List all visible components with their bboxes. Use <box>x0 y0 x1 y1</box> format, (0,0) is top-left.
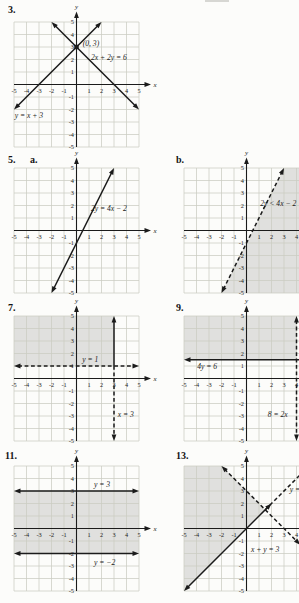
x-tick-label: 1 <box>257 381 260 388</box>
graph-problem-5b: yx-5-5-4-4-3-3-2-2-1-111223344552y < 4x … <box>170 146 299 304</box>
x-tick-label: 4 <box>125 233 129 240</box>
x-tick-label: 2 <box>100 87 103 94</box>
y-tick-label: 5 <box>71 462 74 469</box>
equation-label: (0, 3) <box>83 39 100 48</box>
y-tick-label: -3 <box>69 264 74 271</box>
y-tick-label: 1 <box>241 512 244 519</box>
y-axis-label: y <box>244 149 249 157</box>
equation-line <box>54 25 136 107</box>
x-tick-label: -2 <box>219 381 224 388</box>
equation-label: y = 1 <box>81 355 98 364</box>
y-tick-label: 1 <box>71 512 74 519</box>
x-tick-label: 1 <box>87 381 90 388</box>
y-tick-label: -3 <box>239 562 244 569</box>
equation-label: x + y = 3 <box>250 545 280 554</box>
x-axis-label: x <box>153 375 158 383</box>
arrowhead <box>294 435 299 442</box>
x-tick-label: -3 <box>206 531 211 538</box>
y-tick-label: -3 <box>69 562 74 569</box>
x-tick-label: 1 <box>87 87 90 94</box>
equation-label: y = −2 <box>93 558 115 567</box>
y-tick-label: -2 <box>69 106 74 113</box>
y-tick-label: 1 <box>241 362 244 369</box>
y-tick-label: -4 <box>69 575 75 582</box>
graph-problem-13: yx-5-5-4-4-3-3-2-2-1-11122334455x + y = … <box>170 444 299 602</box>
x-tick-label: 3 <box>112 233 115 240</box>
arrowhead <box>74 158 79 165</box>
x-axis-label: x <box>153 81 158 89</box>
y-tick-label: 3 <box>241 189 244 196</box>
equation-label: y = x + 3 <box>14 111 44 120</box>
arrowhead <box>244 306 249 313</box>
axes: yx <box>14 149 158 293</box>
arrowhead <box>279 168 284 175</box>
y-axis-label: y <box>74 3 79 11</box>
x-tick-label: 2 <box>100 531 103 538</box>
arrowhead <box>109 168 114 175</box>
x-tick-label: -1 <box>231 531 236 538</box>
y-tick-label: -5 <box>69 587 74 594</box>
x-tick-label: 3 <box>282 531 285 538</box>
y-tick-label: -1 <box>69 387 74 394</box>
x-tick-label: 4 <box>125 381 129 388</box>
x-tick-label: -2 <box>49 233 54 240</box>
arrowhead <box>145 526 152 531</box>
arrowhead <box>133 364 140 369</box>
y-tick-label: 5 <box>241 462 244 469</box>
y-tick-label: -4 <box>69 277 75 284</box>
graph-problem-9: yx-5-5-4-4-3-3-2-2-1-111223344554y = 68 … <box>170 294 299 452</box>
x-tick-label: -4 <box>194 381 200 388</box>
y-tick-label: 3 <box>71 337 74 344</box>
x-tick-label: 3 <box>282 233 285 240</box>
x-tick-label: -4 <box>24 381 30 388</box>
x-tick-label: -4 <box>194 233 200 240</box>
x-tick-label: -5 <box>11 531 16 538</box>
x-tick-label: -1 <box>231 381 236 388</box>
equation-label: 2x + 2y = 6 <box>91 53 127 62</box>
arrowhead <box>145 228 152 233</box>
x-tick-label: 1 <box>87 233 90 240</box>
y-tick-label: -1 <box>69 537 74 544</box>
x-axis-label: x <box>153 227 158 235</box>
y-tick-label: 2 <box>71 500 74 507</box>
y-tick-label: 1 <box>71 214 74 221</box>
x-tick-label: 5 <box>137 87 140 94</box>
y-tick-label: 3 <box>241 337 244 344</box>
y-axis-label: y <box>244 297 249 305</box>
x-axis-label: x <box>153 525 158 533</box>
x-tick-label: -1 <box>61 233 66 240</box>
equation-label: 2y = 4x − 2 <box>91 204 127 213</box>
graph-problem-5a: yx-5-5-4-4-3-3-2-2-1-111223344552y = 4x … <box>0 146 160 304</box>
graph-problem-3: yx-5-5-4-4-3-3-2-2-1-11122334455(0, 3)2x… <box>0 0 160 158</box>
plotted-point <box>74 45 78 49</box>
x-tick-label: 5 <box>137 233 140 240</box>
y-tick-label: 5 <box>241 312 244 319</box>
y-tick-label: -1 <box>69 93 74 100</box>
x-tick-label: 1 <box>87 531 90 538</box>
arrowhead <box>112 435 117 442</box>
arrowhead <box>74 12 79 19</box>
y-tick-label: -4 <box>239 425 245 432</box>
y-tick-label: 5 <box>241 164 244 171</box>
y-tick-label: -1 <box>239 239 244 246</box>
x-tick-label: 5 <box>137 531 140 538</box>
x-tick-label: -3 <box>36 531 41 538</box>
y-tick-label: 2 <box>241 202 244 209</box>
y-tick-label: 5 <box>71 312 74 319</box>
x-tick-label: -5 <box>181 233 186 240</box>
x-tick-label: 3 <box>112 531 115 538</box>
x-tick-label: -5 <box>181 381 186 388</box>
equation-label: y = 3 <box>93 480 110 489</box>
y-tick-label: -1 <box>239 387 244 394</box>
y-tick-label: -3 <box>69 118 74 125</box>
x-tick-label: -3 <box>36 87 41 94</box>
y-tick-label: -4 <box>239 575 245 582</box>
y-tick-label: 2 <box>241 500 244 507</box>
x-tick-label: 1 <box>257 531 260 538</box>
y-tick-label: -1 <box>239 537 244 544</box>
y-tick-label: 3 <box>71 189 74 196</box>
x-tick-label: 3 <box>282 381 285 388</box>
y-tick-label: 2 <box>71 202 74 209</box>
x-tick-label: 2 <box>270 381 273 388</box>
y-tick-label: -3 <box>239 412 244 419</box>
